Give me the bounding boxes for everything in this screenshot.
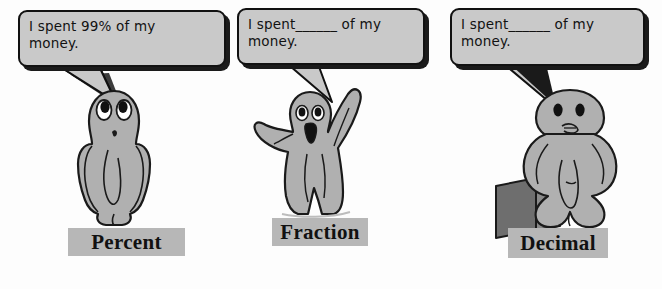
character-decimal xyxy=(500,86,640,232)
worksheet-scene: I spent 99% of my money. Percent xyxy=(0,0,662,289)
speech-bubble-fraction-text: I spent______ of my money. xyxy=(248,16,414,50)
speech-bubble-decimal: I spent______ of my money. xyxy=(450,8,645,66)
speech-bubble-percent: I spent 99% of my money. xyxy=(18,10,226,67)
speech-bubble-fraction: I spent______ of my money. xyxy=(237,8,425,65)
character-fraction xyxy=(252,84,380,220)
label-fraction: Fraction xyxy=(280,220,359,245)
speech-bubble-decimal-text: I spent______ of my money. xyxy=(461,16,634,50)
character-percent xyxy=(58,88,170,230)
label-plate-percent: Percent xyxy=(68,228,185,256)
label-percent: Percent xyxy=(91,230,162,255)
label-plate-decimal: Decimal xyxy=(508,228,608,258)
label-plate-fraction: Fraction xyxy=(272,218,368,246)
label-decimal: Decimal xyxy=(520,231,596,256)
speech-bubble-percent-text: I spent 99% of my money. xyxy=(29,18,215,52)
